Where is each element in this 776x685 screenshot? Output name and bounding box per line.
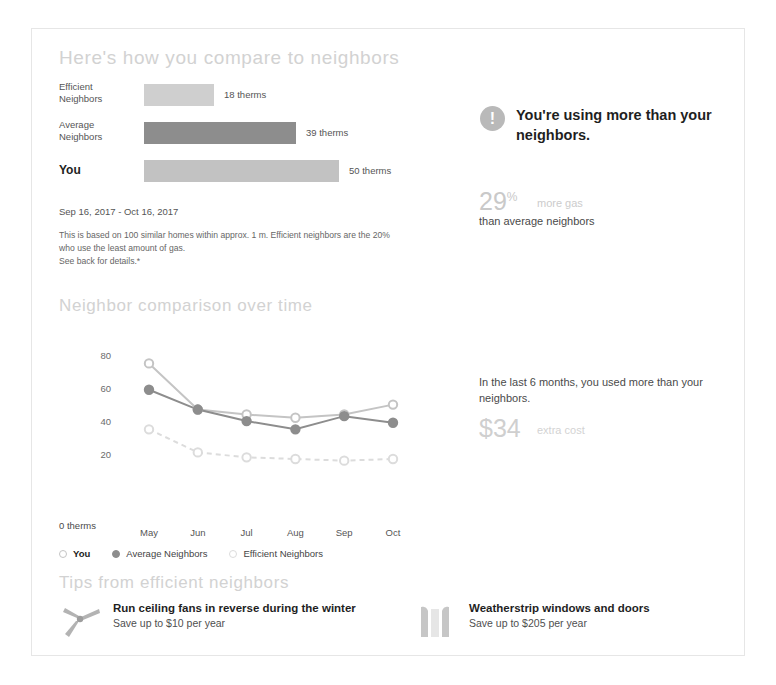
neighbor-comparison-bars: EfficientNeighbors18 thermsAverageNeighb… xyxy=(59,81,439,195)
bar-row: AverageNeighbors39 therms xyxy=(59,119,439,157)
bar-fill xyxy=(144,160,339,182)
chart-data-point xyxy=(194,405,202,413)
x-axis-tick: Sep xyxy=(336,527,353,538)
date-range: Sep 16, 2017 - Oct 16, 2017 xyxy=(59,206,178,217)
chart-data-point xyxy=(340,456,348,464)
section-title-tips: Tips from efficient neighbors xyxy=(59,573,289,593)
tip-title: Run ceiling fans in reverse during the w… xyxy=(113,602,356,614)
tip-item: Run ceiling fans in reverse during the w… xyxy=(59,599,356,643)
chart-data-point xyxy=(340,412,348,420)
tip-savings: Save up to $10 per year xyxy=(113,617,356,629)
percent-more-stat: 29% xyxy=(479,187,517,216)
bar-value: 18 therms xyxy=(224,89,266,100)
legend-label: You xyxy=(73,548,90,559)
disclaimer-text: This is based on 100 similar homes withi… xyxy=(59,229,399,268)
chart-data-point xyxy=(242,417,250,425)
chart-line xyxy=(149,363,393,417)
neighbor-comparison-line-chart: 20406080 0 therms MayJunJulAugSepOct xyxy=(59,334,419,519)
extra-cost-label: extra cost xyxy=(537,424,585,436)
exclamation-circle-icon: ! xyxy=(480,106,505,131)
y-axis-zero-label: 0 therms xyxy=(59,520,96,531)
chart-data-point xyxy=(145,359,153,367)
chart-data-point xyxy=(145,425,153,433)
bar-value: 50 therms xyxy=(349,165,391,176)
percent-value: 29 xyxy=(479,187,507,215)
bar-fill xyxy=(144,122,296,144)
y-axis-tick: 20 xyxy=(100,449,111,460)
disclaimer-line-1: This is based on 100 similar homes withi… xyxy=(59,230,390,253)
y-axis-ticks: 20406080 xyxy=(59,342,111,487)
chart-data-point xyxy=(389,455,397,463)
disclaimer-line-2: See back for details.* xyxy=(59,255,399,268)
tip-item: Weatherstrip windows and doors Save up t… xyxy=(415,599,650,643)
chart-line xyxy=(149,429,393,460)
chart-data-point xyxy=(291,414,299,422)
exclamation-glyph: ! xyxy=(480,106,505,131)
chart-legend: YouAverage NeighborsEfficient Neighbors xyxy=(59,548,345,559)
y-axis-tick: 80 xyxy=(100,350,111,361)
window-icon xyxy=(415,599,459,643)
bar-track xyxy=(144,160,339,182)
x-axis-tick: May xyxy=(140,527,158,538)
chart-line xyxy=(149,390,393,430)
chart-data-point xyxy=(291,455,299,463)
extra-cost-value: $34 xyxy=(479,414,521,443)
percent-stat-label: more gas xyxy=(537,197,583,209)
chart-data-point xyxy=(194,448,202,456)
percent-stat-sub: than average neighbors xyxy=(479,215,595,227)
tip-savings: Save up to $205 per year xyxy=(469,617,650,629)
page-title: Here's how you compare to neighbors xyxy=(59,47,399,69)
bar-label: You xyxy=(59,157,119,183)
chart-plot-area xyxy=(121,342,411,487)
x-axis-tick: Aug xyxy=(287,527,304,538)
x-axis-tick: Oct xyxy=(386,527,401,538)
tip-text: Weatherstrip windows and doors Save up t… xyxy=(469,599,650,629)
y-axis-tick: 60 xyxy=(100,383,111,394)
bar-label: AverageNeighbors xyxy=(59,119,119,142)
bar-label: EfficientNeighbors xyxy=(59,81,119,104)
tip-text: Run ceiling fans in reverse during the w… xyxy=(113,599,356,629)
bar-row: EfficientNeighbors18 therms xyxy=(59,81,439,119)
tip-title: Weatherstrip windows and doors xyxy=(469,602,650,614)
legend-item[interactable]: Efficient Neighbors xyxy=(229,548,323,559)
legend-item[interactable]: You xyxy=(59,548,90,559)
y-axis-tick: 40 xyxy=(100,416,111,427)
bar-value: 39 therms xyxy=(306,127,348,138)
legend-label: Efficient Neighbors xyxy=(243,548,323,559)
x-axis-tick: Jun xyxy=(190,527,205,538)
bar-track xyxy=(144,84,214,106)
over-time-note: In the last 6 months, you used more than… xyxy=(479,374,719,406)
legend-marker-icon xyxy=(112,550,120,558)
chart-data-point xyxy=(145,386,153,394)
chart-data-point xyxy=(389,419,397,427)
chart-data-point xyxy=(389,400,397,408)
legend-label: Average Neighbors xyxy=(126,548,207,559)
chart-svg xyxy=(121,342,411,487)
callout-headline: You're using more than your neighbors. xyxy=(516,105,731,145)
legend-marker-icon xyxy=(59,550,67,558)
ceiling-fan-icon xyxy=(59,599,103,643)
bar-row: You50 therms xyxy=(59,157,439,195)
energy-report-page: Here's how you compare to neighbors Effi… xyxy=(31,28,745,656)
percent-sign: % xyxy=(507,190,518,204)
chart-data-point xyxy=(291,425,299,433)
legend-marker-icon xyxy=(229,550,237,558)
bar-track xyxy=(144,122,296,144)
bar-fill xyxy=(144,84,214,106)
section-title-over-time: Neighbor comparison over time xyxy=(59,296,313,316)
legend-item[interactable]: Average Neighbors xyxy=(112,548,207,559)
chart-data-point xyxy=(242,453,250,461)
x-axis-tick: Jul xyxy=(241,527,253,538)
